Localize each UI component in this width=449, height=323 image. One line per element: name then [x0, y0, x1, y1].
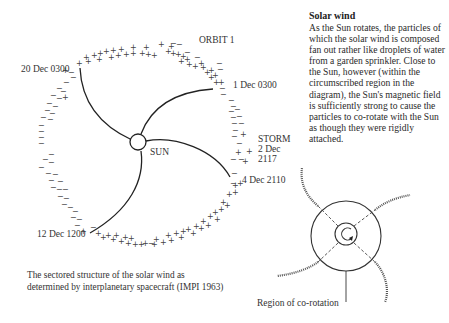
svg-text:−: −	[184, 48, 191, 57]
svg-text:−: −	[238, 119, 245, 128]
svg-text:−: −	[148, 239, 155, 248]
date-label-20-dec: 20 Dec 0300	[21, 64, 70, 74]
svg-text:−: −	[231, 169, 238, 178]
co-rotation-boundary	[311, 201, 381, 271]
spiral-arm-nw	[80, 68, 132, 140]
svg-text:+: +	[151, 51, 158, 60]
storm-time-label: 2117	[258, 154, 277, 164]
svg-text:−: −	[230, 179, 237, 188]
orbit-label: ORBIT 1	[199, 35, 234, 45]
svg-text:−: −	[38, 163, 45, 172]
sun-circle	[130, 134, 146, 150]
date-label-4-dec: 4 Dec 2110	[242, 175, 285, 185]
svg-text:+: +	[130, 49, 137, 58]
figure-caption-line1: The sectored structure of the solar wind…	[27, 269, 185, 281]
storm-date-label: 2 Dec	[258, 144, 280, 154]
figure-caption-line2: determined by interplanetary spacecraft …	[27, 281, 223, 293]
co-rotation-inset	[277, 168, 410, 302]
svg-text:−: −	[217, 65, 224, 74]
date-label-12-dec: 12 Dec 1200	[37, 229, 86, 239]
svg-text:−: −	[38, 139, 45, 148]
sidebar-title: Solar wind	[309, 10, 355, 21]
svg-text:+: +	[240, 130, 247, 139]
svg-text:−: −	[236, 139, 243, 148]
svg-text:+: +	[76, 59, 83, 68]
svg-text:−: −	[90, 223, 97, 232]
svg-text:−: −	[176, 40, 183, 49]
sector-markers-positive: +++ +++ +++ +++ +++ +++ +++ +++ +++ +++ …	[62, 40, 253, 249]
svg-text:+: +	[205, 221, 212, 230]
svg-text:−: −	[70, 73, 77, 82]
svg-text:+: +	[224, 201, 231, 210]
svg-text:+: +	[214, 215, 221, 224]
svg-text:−: −	[63, 78, 70, 87]
spiral-arm-sw	[90, 151, 142, 233]
svg-text:−: −	[47, 115, 54, 124]
date-label-1-dec: 1 Dec 0300	[233, 80, 277, 90]
svg-text:−: −	[238, 155, 245, 164]
spiral-arm-ne	[141, 89, 213, 134]
svg-text:−: −	[220, 90, 227, 99]
svg-text:+: +	[246, 147, 253, 156]
svg-text:+: +	[96, 55, 103, 64]
inner-sun-circle	[335, 223, 357, 245]
svg-text:−: −	[194, 53, 201, 62]
co-rotation-label: Region of co-rotation	[257, 298, 339, 308]
svg-text:−: −	[230, 155, 237, 164]
svg-text:+: +	[158, 40, 165, 49]
svg-text:+: +	[123, 50, 130, 59]
spiral-arm-se	[146, 140, 230, 177]
storm-label: STORM	[258, 134, 291, 144]
sun-label: SUN	[150, 147, 169, 157]
sidebar-body: As the Sun rotates, the particles of whi…	[309, 22, 449, 144]
svg-text:−: −	[48, 158, 55, 167]
